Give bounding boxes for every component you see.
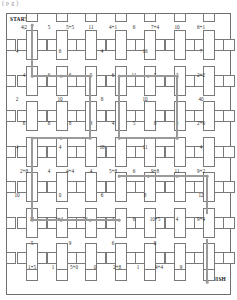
path-segment (31, 25, 33, 76)
solution-path (7, 14, 230, 294)
path-node (118, 175, 121, 178)
path-node (60, 75, 63, 78)
path-node (176, 175, 179, 178)
path-node (60, 219, 63, 222)
path-segment (206, 239, 208, 282)
puzzle-frame: START FINISH 4|255+5114+167+4106+1464167… (6, 13, 231, 295)
path-node (89, 219, 92, 222)
page-caption: ( p g ) (0, 0, 237, 12)
puzzle-page: ( p g ) START FINISH 4|255+5114+167+4106… (0, 0, 237, 300)
path-node (147, 175, 150, 178)
path-segment (118, 76, 120, 138)
path-segment (119, 137, 177, 139)
path-node (147, 75, 150, 78)
path-segment (119, 175, 207, 177)
path-node (60, 137, 63, 140)
path-node (89, 137, 92, 140)
path-segment (89, 76, 91, 138)
path-node (206, 281, 209, 284)
path-segment (176, 76, 178, 138)
path-segment (206, 176, 208, 214)
path-node (118, 219, 121, 222)
path-segment (32, 219, 119, 221)
path-node (31, 24, 34, 27)
path-segment (31, 138, 33, 220)
